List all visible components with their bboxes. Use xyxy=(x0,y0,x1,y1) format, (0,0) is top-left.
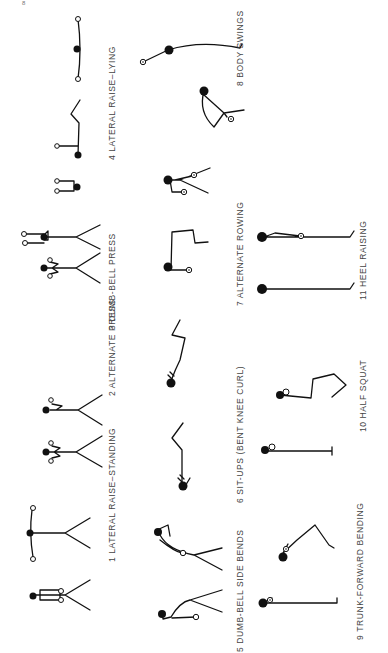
exercise-label-7: 7 ALTERNATE ROWING xyxy=(235,202,245,306)
figure-alternate-rowing xyxy=(164,168,211,273)
exercise-label-11: 11 HEEL RAISING xyxy=(358,221,368,300)
exercise-label-9: 9 TRUNK-FORWARD BENDING xyxy=(355,503,365,640)
exercise-figures xyxy=(0,0,388,653)
figure-half-squat xyxy=(261,374,346,455)
exercise-label-1: 1 LATERAL RAISE–STANDING xyxy=(107,428,117,562)
figure-dumbbell-press xyxy=(22,225,101,283)
figure-body-swings xyxy=(140,44,244,127)
figure-lateral-raise-standing xyxy=(27,506,91,611)
exercise-label-8: 8 BODY SWINGS xyxy=(235,10,245,86)
exercise-label-6: 6 SIT-UPS (BENT KNEE CURL) xyxy=(235,366,245,503)
exercise-label-10: 10 HALF SQUAT xyxy=(358,360,368,432)
figure-heel-raising xyxy=(257,231,354,294)
exercise-label-2: 2 ALTERNATE PRESS xyxy=(107,299,117,396)
figure-dumbbell-side-bends xyxy=(154,525,222,620)
figure-sit-ups xyxy=(167,320,191,491)
exercise-label-4: 4 LATERAL RAISE–LYING xyxy=(107,46,117,160)
exercise-label-5: 5 DUMB-BELL SIDE BENDS xyxy=(235,530,245,652)
figure-alternate-press xyxy=(43,395,103,467)
figure-lateral-raise-lying xyxy=(55,17,82,194)
figure-trunk-forward-bending xyxy=(259,525,338,608)
